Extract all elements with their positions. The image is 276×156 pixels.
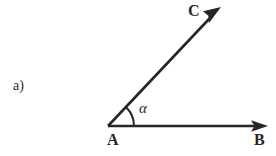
point-label-a: A xyxy=(107,132,119,148)
ray-ab xyxy=(108,120,268,132)
angle-figure: a) A B C α xyxy=(0,0,276,156)
ray-ac-line xyxy=(108,19,210,127)
point-label-b: B xyxy=(254,132,265,148)
geometry-canvas xyxy=(0,0,276,156)
ray-ac-arrowhead-icon xyxy=(203,7,221,23)
item-label: a) xyxy=(13,79,24,93)
ray-ac xyxy=(108,7,221,126)
point-label-c: C xyxy=(188,3,200,19)
angle-arc xyxy=(126,107,134,126)
angle-label-alpha: α xyxy=(139,101,147,116)
